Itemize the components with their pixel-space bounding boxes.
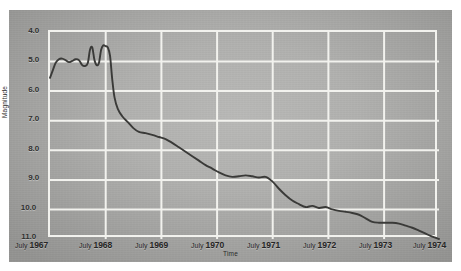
x-tick-year: 1967	[29, 240, 48, 250]
y-axis-title: Magnitude	[1, 86, 8, 118]
x-tick-year: 1970	[205, 240, 224, 250]
x-tick-month: July	[247, 242, 259, 249]
x-tick-label: July 1970	[191, 241, 224, 250]
x-tick-month: July	[359, 242, 371, 249]
y-tick-label: 8.0	[13, 144, 39, 153]
x-tick-year: 1971	[261, 240, 280, 250]
plot-area	[48, 30, 437, 237]
x-tick-year: 1972	[317, 240, 336, 250]
x-tick-year: 1974	[427, 240, 446, 250]
x-tick-label: July 1967	[15, 241, 48, 250]
x-tick-month: July	[413, 242, 425, 249]
x-tick-month: July	[135, 242, 147, 249]
x-tick-year: 1969	[149, 240, 168, 250]
y-tick-label: 7.0	[13, 114, 39, 123]
chart-figure: 4.0 5.0 6.0 7.0 8.0 9.0 10.0 11.0 Magnit…	[9, 10, 452, 262]
x-tick-label: July 1971	[247, 241, 280, 250]
x-tick-label: July 1973	[359, 241, 392, 250]
x-tick-month: July	[191, 242, 203, 249]
chart-svg	[48, 30, 441, 241]
x-tick-label: July 1974	[413, 241, 446, 250]
y-tick-label: 9.0	[13, 173, 39, 182]
x-tick-label: July 1972	[303, 241, 336, 250]
x-axis-title: Time	[9, 250, 452, 257]
y-tick-label: 10.0	[10, 203, 36, 212]
x-tick-month: July	[303, 242, 315, 249]
y-tick-label: 5.0	[13, 55, 39, 64]
x-tick-month: July	[79, 242, 91, 249]
x-tick-label: July 1969	[135, 241, 168, 250]
x-tick-year: 1973	[373, 240, 392, 250]
gridlines-horizontal	[50, 62, 439, 210]
x-tick-label: July 1968	[79, 241, 112, 250]
gridlines-vertical	[106, 32, 384, 239]
y-tick-label: 4.0	[13, 26, 39, 35]
x-tick-year: 1968	[93, 240, 112, 250]
y-tick-label: 6.0	[13, 85, 39, 94]
x-tick-month: July	[15, 242, 27, 249]
